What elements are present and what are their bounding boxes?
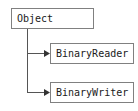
class-node-binaryreader-label: BinaryReader bbox=[51, 49, 128, 59]
class-node-object-label: Object bbox=[12, 14, 53, 24]
class-diagram-canvas: Object BinaryReader BinaryWriter bbox=[0, 0, 138, 111]
class-node-object[interactable]: Object bbox=[11, 8, 94, 29]
class-node-binarywriter[interactable]: BinaryWriter bbox=[50, 82, 134, 103]
class-node-binarywriter-label: BinaryWriter bbox=[51, 88, 128, 98]
class-node-binaryreader[interactable]: BinaryReader bbox=[50, 43, 134, 64]
